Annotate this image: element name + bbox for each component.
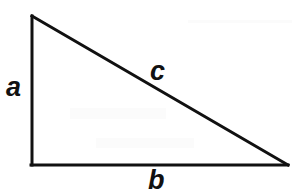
triangle-hypotenuse [32, 16, 288, 165]
triangle-figure: a c b [0, 0, 303, 196]
side-label-c: c [150, 58, 165, 85]
side-label-b: b [148, 167, 165, 194]
side-label-a: a [6, 74, 21, 101]
